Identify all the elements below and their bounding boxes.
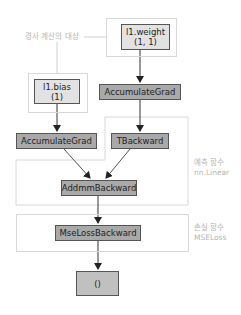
annotation-prediction-fn-module: nn.Linear — [194, 168, 229, 178]
node-addmm-backward: AddmmBackward — [61, 180, 137, 196]
annotation-loss-fn-module: MSELoss — [194, 233, 226, 243]
node-tbackward: TBackward — [111, 133, 169, 149]
node-l1-weight-name: l1.weight — [126, 27, 165, 37]
node-l1-bias: l1.bias (1) — [34, 79, 80, 104]
annotation-loss-fn-title: 손실 함수 — [194, 223, 226, 233]
node-accumulate-grad-bias: AccumulateGrad — [16, 133, 97, 149]
node-tbackward-label: TBackward — [117, 136, 164, 146]
node-accumulate-grad-weight-label: AccumulateGrad — [105, 87, 176, 97]
node-addmm-backward-label: AddmmBackward — [62, 183, 137, 193]
annotation-prediction-fn-title: 예측 함수 — [194, 158, 229, 168]
edge-tbackward-addmm — [106, 149, 130, 178]
node-l1-bias-shape: (1) — [51, 92, 63, 102]
node-mseloss-backward-label: MseLossBackward — [59, 228, 136, 238]
node-mseloss-backward: MseLossBackward — [55, 225, 141, 241]
annotation-grad-target-text: 경사 계산의 대상 — [25, 32, 79, 41]
node-accumulate-grad-weight: AccumulateGrad — [99, 84, 181, 100]
node-output-label: () — [94, 279, 101, 289]
annotation-grad-target: 경사 계산의 대상 — [25, 32, 79, 42]
annotation-prediction-fn: 예측 함수 nn.Linear — [194, 158, 229, 178]
node-l1-weight: l1.weight (1, 1) — [121, 24, 170, 50]
node-accumulate-grad-bias-label: AccumulateGrad — [21, 136, 92, 146]
node-l1-bias-name: l1.bias — [43, 82, 71, 92]
node-l1-weight-shape: (1, 1) — [134, 37, 157, 47]
annotation-loss-fn: 손실 함수 MSELoss — [194, 223, 226, 243]
node-output: () — [76, 271, 119, 296]
edge-accgrad-addmm — [64, 149, 90, 178]
